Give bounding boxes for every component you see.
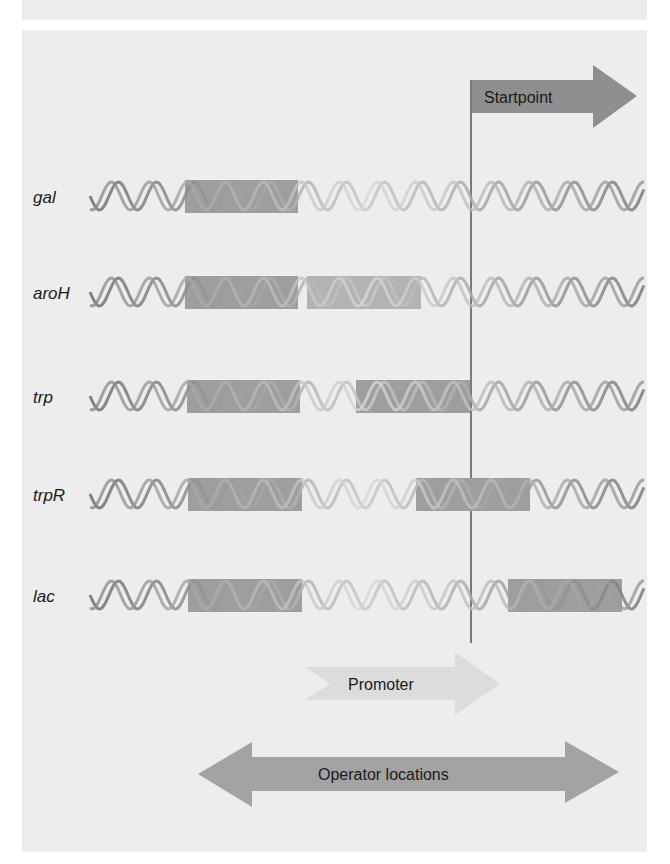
gene-row-lac: lac — [33, 579, 644, 612]
gene-label: trpR — [33, 486, 65, 505]
gene-label: trp — [33, 388, 53, 407]
gene-row-gal: gal — [33, 180, 644, 213]
gene-label: gal — [33, 188, 57, 207]
gene-label: lac — [33, 587, 55, 606]
gene-label: aroH — [33, 284, 71, 303]
gene-row-aroH: aroH — [33, 276, 644, 309]
promoter-label: Promoter — [348, 676, 414, 693]
promoter-operator-diagram: Startpoint galaroHtrptrpRlac Promoter Op… — [0, 0, 670, 864]
startpoint-label: Startpoint — [484, 89, 553, 106]
gene-row-trp: trp — [33, 380, 644, 413]
gene-row-trpR: trpR — [33, 478, 644, 511]
operator-locations-label: Operator locations — [318, 766, 449, 783]
promoter-arrow: Promoter — [305, 652, 500, 715]
gene-rows: galaroHtrptrpRlac — [33, 180, 644, 612]
startpoint-arrow: Startpoint — [471, 65, 637, 128]
operator-locations-arrow: Operator locations — [198, 741, 619, 807]
